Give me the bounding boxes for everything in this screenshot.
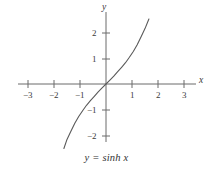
y-tick-label-1: 1 (92, 55, 97, 64)
x-tick-label-3: 3 (182, 91, 187, 100)
x-tick-label--1: −1 (75, 91, 85, 100)
x-axis-label: x (199, 76, 203, 86)
y-axis-label: y (102, 3, 106, 13)
plot-canvas (0, 0, 213, 175)
y-tick-label-2: 2 (92, 29, 97, 38)
y-tick-label--2: −2 (87, 132, 97, 141)
sinh-figure: −3 −2 −1 1 2 3 2 1 −1 −2 y x y = sinh x (0, 0, 213, 175)
figure-caption: y = sinh x (0, 152, 213, 163)
x-tick-label--2: −2 (49, 91, 59, 100)
y-tick-label--1: −1 (87, 106, 97, 115)
x-tick-label--3: −3 (23, 91, 33, 100)
x-tick-label-2: 2 (156, 91, 161, 100)
x-tick-label-1: 1 (130, 91, 135, 100)
